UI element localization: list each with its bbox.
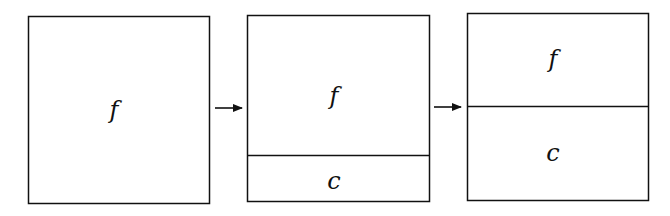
diagram-canvas: f f c f c (0, 0, 670, 216)
panel-1-box (29, 17, 210, 204)
panel-3: f c (468, 14, 649, 201)
panel-3-label-c: c (546, 139, 559, 167)
panel-2-label-c: c (327, 167, 340, 195)
panel-2: f c (248, 16, 430, 202)
panel-1: f (29, 17, 210, 204)
